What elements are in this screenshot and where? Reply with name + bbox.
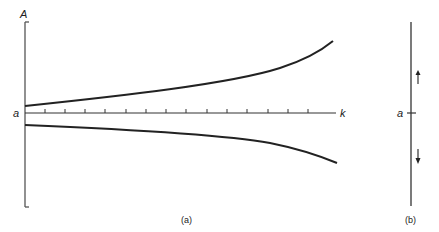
arrow-down-icon — [416, 149, 421, 164]
upper-branch-curve — [25, 41, 333, 106]
panel-b: a (b) — [397, 22, 421, 225]
x-axis-label: k — [340, 107, 346, 119]
equilibrium-label: a — [397, 107, 403, 119]
figure-canvas: A k a (a) a — [0, 0, 439, 232]
panel-a: A k a (a) — [13, 8, 346, 225]
panel-b-caption: (b) — [405, 215, 416, 225]
arrow-up-icon — [416, 70, 421, 84]
y-axis-label: A — [19, 8, 27, 20]
panel-a-caption: (a) — [181, 215, 192, 225]
origin-label: a — [13, 107, 19, 119]
lower-branch-curve — [25, 125, 337, 163]
